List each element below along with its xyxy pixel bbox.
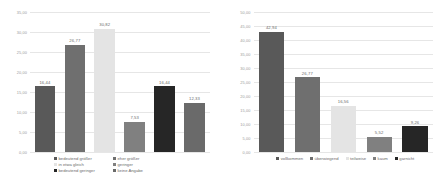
bar-value-label: 5,52 [375,130,384,135]
legend-item-label: garnicht [399,156,414,161]
legend-item[interactable]: teilweise [346,156,367,161]
bar-series-right: 42,9426,7716,565,529,26 [254,12,434,152]
legend-swatch-icon [54,169,57,172]
y-axis-tick-label: 5,00 [19,130,27,135]
bar[interactable] [402,126,427,152]
bar[interactable] [124,122,145,152]
legend-swatch-icon [310,157,313,160]
bar-value-label: 12,33 [189,96,200,101]
bar[interactable] [35,86,56,152]
y-axis-tick-label: 20,00 [17,70,27,75]
bar-slot[interactable]: 7,53 [124,12,145,152]
legend-item-label: keine Angabe [118,168,143,173]
bar-slot[interactable]: 16,44 [35,12,56,152]
legend-swatch-icon [113,163,116,166]
bar[interactable] [259,32,284,152]
y-axis-tick-label: 50,00 [240,10,250,15]
bar-slot[interactable]: 26,77 [295,12,320,152]
plot-area-left: 0,005,0010,0015,0020,0025,0030,0035,00 1… [30,12,210,152]
legend-item-label: in etwa gleich [59,162,84,167]
gridline [30,152,210,153]
y-axis-tick-label: 0,00 [243,150,251,155]
bar[interactable] [367,137,392,152]
legend-item[interactable]: überwiegend [310,156,338,161]
bar-value-label: 42,94 [266,25,277,30]
legend-swatch-icon [54,163,57,166]
legend-swatch-icon [54,157,57,160]
bar[interactable] [331,106,356,152]
y-axis-tick-label: 20,00 [240,94,250,99]
legend-item[interactable]: bedeutend geringer [54,168,106,173]
bar-value-label: 16,44 [39,80,50,85]
bar-value-label: 7,53 [130,115,139,120]
bar-series-left: 16,4426,7730,827,5316,4412,33 [30,12,210,152]
legend-item[interactable]: vollkommen [276,156,303,161]
legend-left: bedeutend größereher größerin etwa gleic… [30,156,214,173]
bar-value-label: 26,77 [69,38,80,43]
bar[interactable] [295,77,320,152]
legend-item[interactable]: bedeutend größer [54,156,106,161]
legend-swatch-icon [373,157,376,160]
bar[interactable] [154,86,175,152]
legend-item-label: eher größer [118,156,140,161]
legend-item-label: vollkommen [281,156,303,161]
legend-item-label: überwiegend [315,156,339,161]
legend-item[interactable]: geringer [113,162,165,167]
legend-item-label: kaum [378,156,388,161]
plot-area-right: 0,005,0010,0015,0020,0025,0030,0035,0040… [254,12,434,152]
legend-item-label: geringer [118,162,133,167]
y-axis-tick-label: 0,00 [19,150,27,155]
bar-slot[interactable]: 30,82 [94,12,115,152]
bar[interactable] [184,103,205,152]
bar-value-label: 16,56 [338,99,349,104]
bar-slot[interactable]: 16,56 [331,12,356,152]
legend-item[interactable]: garnicht [395,156,414,161]
bar-value-label: 30,82 [99,22,110,27]
legend-item-label: bedeutend geringer [59,168,95,173]
bar-value-label: 16,44 [159,80,170,85]
legend-swatch-icon [395,157,398,160]
legend-item-label: bedeutend größer [59,156,92,161]
y-axis-tick-label: 45,00 [240,24,250,29]
gridline [254,152,434,153]
bar-slot[interactable]: 5,52 [367,12,392,152]
legend-swatch-icon [276,157,279,160]
y-axis-tick-label: 15,00 [240,108,250,113]
bar-slot[interactable]: 9,26 [402,12,427,152]
legend-right: vollkommenüberwiegendteilweisekaumgarnic… [254,156,438,161]
bar[interactable] [65,45,86,152]
legend-swatch-icon [113,169,116,172]
y-axis-tick-label: 5,00 [243,136,251,141]
bar-slot[interactable]: 26,77 [65,12,86,152]
legend-item[interactable]: in etwa gleich [54,162,106,167]
legend-item[interactable]: kaum [373,156,388,161]
chart-panel-right: 0,005,0010,0015,0020,0025,0030,0035,0040… [224,0,447,192]
y-axis-tick-label: 35,00 [17,10,27,15]
y-axis-tick-label: 40,00 [240,38,250,43]
bar[interactable] [94,29,115,152]
y-axis-tick-label: 25,00 [240,80,250,85]
y-axis-tick-label: 30,00 [17,30,27,35]
legend-item[interactable]: eher größer [113,156,165,161]
bar-slot[interactable]: 12,33 [184,12,205,152]
bar-value-label: 9,26 [411,120,420,125]
dual-chart-page: 0,005,0010,0015,0020,0025,0030,0035,00 1… [0,0,447,192]
legend-swatch-icon [346,157,349,160]
y-axis-tick-label: 15,00 [17,90,27,95]
bar-value-label: 26,77 [302,71,313,76]
y-axis-tick-label: 10,00 [240,122,250,127]
y-axis-tick-label: 30,00 [240,66,250,71]
bar-slot[interactable]: 42,94 [259,12,284,152]
legend-swatch-icon [113,157,116,160]
y-axis-tick-label: 10,00 [17,110,27,115]
y-axis-tick-label: 25,00 [17,50,27,55]
legend-item-label: teilweise [350,156,366,161]
bar-slot[interactable]: 16,44 [154,12,175,152]
chart-panel-left: 0,005,0010,0015,0020,0025,0030,0035,00 1… [0,0,224,192]
legend-item[interactable]: keine Angabe [113,168,165,173]
y-axis-tick-label: 35,00 [240,52,250,57]
